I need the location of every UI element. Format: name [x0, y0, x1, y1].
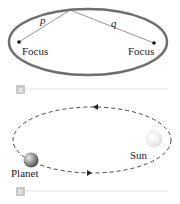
panel-tag-b: b: [16, 187, 25, 196]
label-focus-left: Focus: [22, 46, 48, 57]
ellipse-outline: [9, 9, 167, 75]
label-q: q: [111, 18, 117, 29]
sun-sphere: [146, 131, 162, 147]
orbit-arrow-top: [93, 104, 98, 110]
panel-tag-a: a: [16, 85, 25, 94]
label-focus-right: Focus: [128, 46, 154, 57]
focus-left-dot: [17, 40, 21, 44]
label-planet: Planet: [11, 168, 39, 179]
label-p: p: [40, 15, 46, 26]
planet-sphere: [24, 153, 39, 168]
orbit-arrow-bottom: [87, 170, 92, 176]
label-sun: Sun: [130, 150, 147, 161]
